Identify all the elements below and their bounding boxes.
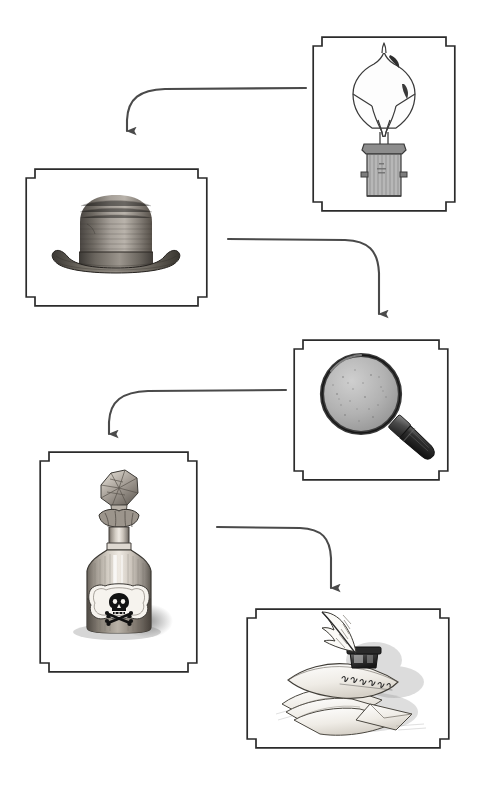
- panel-poison-bottle[interactable]: [39, 451, 198, 673]
- arrow-bulb-to-hat: [127, 88, 306, 131]
- bowler-hat-icon: [25, 168, 208, 307]
- lightbulb-icon: [312, 36, 456, 212]
- poison-bottle-icon: [39, 451, 198, 673]
- quill-letters-icon: [246, 608, 450, 749]
- magnifying-glass-icon: [293, 339, 449, 481]
- panel-bowler-hat[interactable]: [25, 168, 208, 307]
- panel-lightbulb[interactable]: [312, 36, 456, 212]
- arrow-bottle-to-letters: [217, 527, 331, 588]
- panel-magnifying-glass[interactable]: [293, 339, 449, 481]
- arrow-magnifier-to-bottle: [109, 390, 286, 434]
- flowchart-canvas: [0, 0, 482, 794]
- panel-quill-and-letters[interactable]: [246, 608, 450, 749]
- arrow-hat-to-magnifier: [228, 239, 379, 314]
